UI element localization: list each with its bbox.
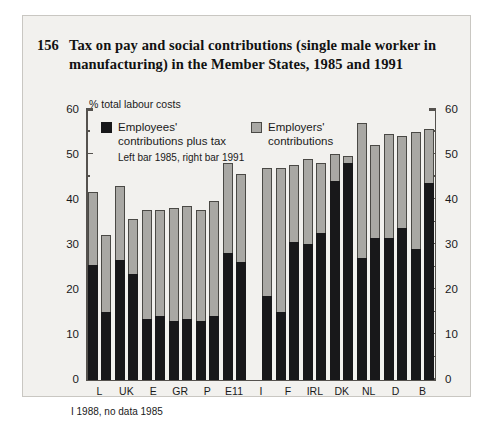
bar-segment-employees [236, 262, 246, 379]
bar-b-1991[interactable] [424, 129, 434, 379]
bar-group-i [248, 109, 275, 380]
bar-group-gr [167, 109, 194, 380]
page-title: Tax on pay and social contributions (sin… [69, 36, 457, 74]
bar-e11-1985[interactable] [223, 163, 233, 379]
figure-number: 156 [37, 36, 69, 55]
bar-segment-employers [128, 219, 138, 273]
bar-segment-employers [411, 132, 421, 249]
bar-segment-employees [316, 233, 326, 380]
y-axis-label-left-20: 20 [53, 284, 79, 295]
x-axis-label-nl: NL [362, 385, 375, 397]
bar-b-1985[interactable] [411, 132, 421, 380]
bar-nl-1991[interactable] [370, 145, 380, 379]
x-axis-label-f: F [285, 385, 291, 397]
y-axis-label-right-20: 20 [445, 284, 471, 295]
x-axis-label-l: L [97, 385, 103, 397]
y-axis-label-left-0: 0 [53, 374, 79, 385]
bar-l-1991[interactable] [101, 235, 111, 379]
bar-uk-1985[interactable] [115, 186, 125, 380]
bar-group-nl [355, 109, 382, 380]
x-axis-label-e11: E11 [225, 385, 243, 397]
bar-d-1985[interactable] [384, 134, 394, 380]
bar-l-1985[interactable] [88, 192, 98, 379]
bar-segment-employees [330, 181, 340, 379]
x-axis-label-d: D [392, 385, 400, 397]
bar-segment-employers [303, 159, 313, 245]
bar-segment-employees [196, 321, 206, 380]
bar-f-1991[interactable] [289, 165, 299, 379]
bar-segment-employers [169, 208, 179, 321]
bar-segment-employees [182, 319, 192, 380]
bar-segment-employers [236, 174, 246, 262]
y-axis-label-left-50: 50 [53, 149, 79, 160]
y-axis-label-right-60: 60 [445, 104, 471, 115]
bar-gr-1991[interactable] [182, 206, 192, 380]
bar-segment-employees [384, 238, 394, 380]
x-axis-line [86, 380, 436, 382]
bar-e11-1991[interactable] [236, 174, 246, 379]
bar-segment-employers [196, 210, 206, 320]
bar-gr-1985[interactable] [169, 208, 179, 379]
bar-segment-employees [357, 258, 367, 380]
bar-segment-employers [101, 235, 111, 312]
y-axis-label-right-50: 50 [445, 149, 471, 160]
bar-segment-employees [411, 249, 421, 380]
bar-group-dk [328, 109, 355, 380]
bar-segment-employees [276, 312, 286, 380]
bar-segment-employers [357, 123, 367, 258]
bar-uk-1991[interactable] [128, 219, 138, 379]
bar-segment-employers [209, 201, 219, 316]
bar-segment-employees [169, 321, 179, 380]
bar-segment-employers [316, 163, 326, 233]
bar-group-b [409, 109, 436, 380]
bar-segment-employers [182, 206, 192, 319]
bar-segment-employers [384, 134, 394, 238]
bar-segment-employees [303, 244, 313, 379]
x-axis-label-p: P [204, 385, 211, 397]
bar-d-1991[interactable] [397, 136, 407, 379]
bar-segment-employers [142, 210, 152, 318]
bar-group-l [86, 109, 113, 380]
bar-nl-1985[interactable] [357, 123, 367, 380]
bar-segment-employees [397, 228, 407, 379]
bar-irl-1985[interactable] [303, 159, 313, 380]
bar-segment-employers [88, 192, 98, 264]
y-axis-label-left-30: 30 [53, 239, 79, 250]
bar-segment-employees [115, 260, 125, 379]
bar-f-1985[interactable] [276, 168, 286, 380]
bar-group-uk [113, 109, 140, 380]
bar-segment-employees [289, 242, 299, 380]
bar-group-irl [301, 109, 328, 380]
bar-e-1985[interactable] [142, 210, 152, 379]
bar-dk-1985[interactable] [330, 154, 340, 379]
bar-p-1985[interactable] [196, 210, 206, 379]
y-axis-label-left-10: 10 [53, 329, 79, 340]
figure-panel: 156 Tax on pay and social contributions … [22, 15, 471, 397]
bar-segment-employees [101, 312, 111, 380]
bar-segment-employees [88, 265, 98, 380]
bar-segment-employers [424, 129, 434, 183]
x-axis-label-e: E [150, 385, 157, 397]
x-axis-label-gr: GR [172, 385, 188, 397]
x-axis-label-irl: IRL [307, 385, 323, 397]
x-axis-label-dk: DK [334, 385, 349, 397]
bar-segment-employers [276, 168, 286, 312]
bar-segment-employees [370, 238, 380, 380]
bar-segment-employees [128, 274, 138, 380]
chart-plot-area: 0102030405060 0102030405060 LUKEGRPE11IF… [86, 109, 436, 381]
bar-e-1991[interactable] [155, 210, 165, 379]
bar-segment-employers [330, 154, 340, 181]
x-axis-label-uk: UK [119, 385, 134, 397]
y-axis-label-left-60: 60 [53, 104, 79, 115]
bar-segment-employers [155, 210, 165, 316]
bar-irl-1991[interactable] [316, 163, 326, 379]
bar-group-e [140, 109, 167, 380]
bar-p-1991[interactable] [209, 201, 219, 379]
bar-segment-employers [370, 145, 380, 237]
bar-i-1991[interactable] [262, 168, 272, 380]
bar-segment-employees [142, 319, 152, 380]
bar-segment-employees [223, 253, 233, 379]
figure-title-row: 156 Tax on pay and social contributions … [37, 36, 457, 74]
bar-group-p [194, 109, 221, 380]
bar-dk-1991[interactable] [343, 156, 353, 379]
